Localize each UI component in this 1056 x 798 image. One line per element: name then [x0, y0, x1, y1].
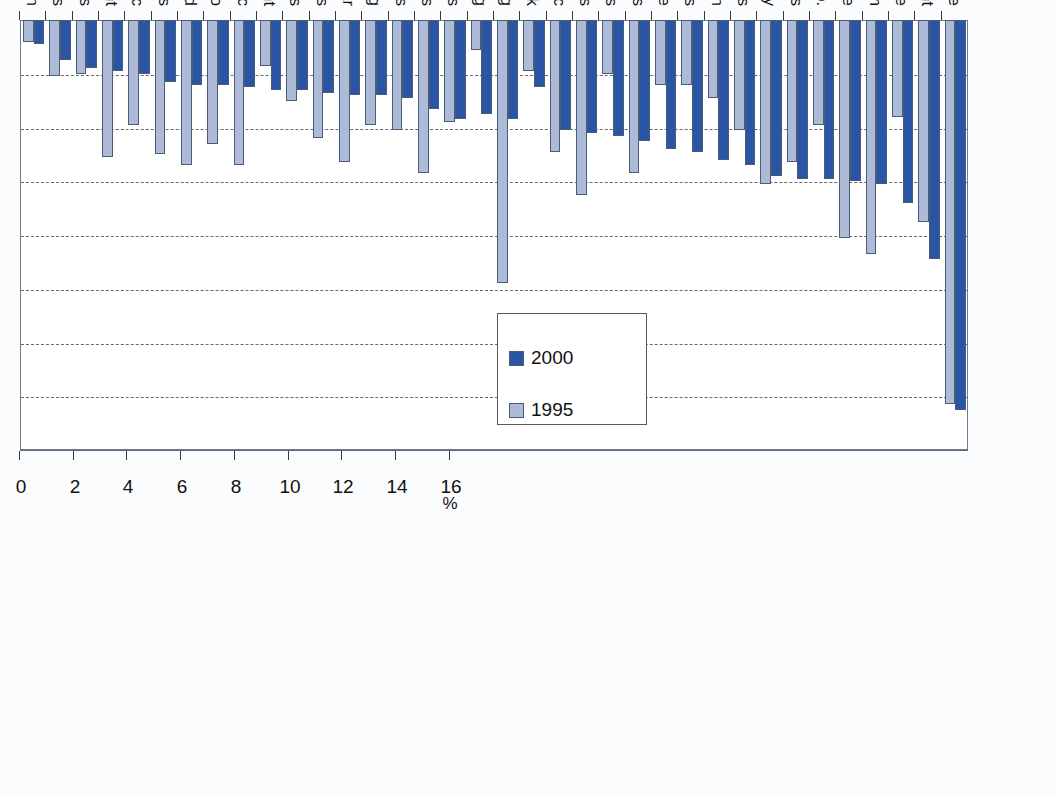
- category-tick: [98, 11, 99, 20]
- bar-1995: [208, 20, 219, 144]
- value-axis-tick: [127, 451, 128, 460]
- bar-1995: [524, 20, 535, 71]
- bar-2000: [86, 20, 97, 68]
- bar-2000: [639, 20, 650, 141]
- bar-2000: [929, 20, 940, 259]
- gridline: [21, 236, 967, 237]
- bar-1995: [234, 20, 245, 165]
- category-label: Rubber and plastics: [314, 0, 331, 6]
- bar-1995: [813, 20, 824, 125]
- bar-1995: [866, 20, 877, 254]
- bar-2000: [455, 20, 466, 119]
- bar-1995: [287, 20, 298, 101]
- category-label: Other transport equipment: [104, 0, 121, 6]
- bar-2000: [297, 20, 308, 90]
- bar-1995: [445, 20, 456, 122]
- bar-2000: [429, 20, 440, 109]
- category-label: Education: [709, 0, 726, 6]
- category-label: Electrical machinery nec: [130, 0, 147, 6]
- value-axis-tick: [19, 451, 20, 460]
- legend-label-1995: 1995: [531, 399, 573, 421]
- bar-2000: [771, 20, 782, 176]
- bar-1995: [787, 20, 798, 162]
- category-label: Textiles, leather and footwear: [341, 0, 358, 6]
- bar-2000: [113, 20, 124, 71]
- category-tick: [914, 11, 915, 20]
- category-tick: [941, 11, 942, 20]
- value-axis-label: 14: [374, 476, 420, 498]
- bar-1995: [576, 20, 587, 195]
- bar-1995: [260, 20, 271, 66]
- bar-2000: [323, 20, 334, 93]
- category-label: Radio, TV, communication equip.: [815, 0, 832, 6]
- category-tick: [309, 11, 310, 20]
- bar-1995: [471, 20, 482, 50]
- bar-2000: [271, 20, 282, 90]
- value-axis-tick: [449, 451, 450, 460]
- bar-2000: [402, 20, 413, 98]
- bar-2000: [376, 20, 387, 95]
- chart-canvas: 0246810121416%Transport and storageResea…: [0, 0, 1056, 798]
- category-tick: [335, 11, 336, 20]
- rotated-figure: 0246810121416%Transport and storageResea…: [0, 0, 1056, 798]
- category-tick: [888, 11, 889, 20]
- category-tick: [177, 11, 178, 20]
- bar-2000: [244, 20, 255, 87]
- category-label: Motor vehicles: [77, 0, 94, 6]
- category-tick: [809, 11, 810, 20]
- category-label: Health and social work: [525, 0, 542, 6]
- bar-2000: [218, 20, 229, 85]
- axis-unit-label: %: [442, 494, 457, 514]
- bar-1995: [50, 20, 61, 76]
- category-label: Hotels and restaurants: [788, 0, 805, 6]
- category-label: Mining and quarrying: [499, 0, 516, 6]
- legend-item-1995[interactable]: 1995: [509, 399, 573, 421]
- bar-1995: [129, 20, 140, 125]
- bar-2000: [34, 20, 45, 44]
- bar-2000: [192, 20, 203, 85]
- category-label: Finance, insurance: [841, 0, 858, 6]
- gridline: [21, 397, 967, 398]
- bar-2000: [481, 20, 492, 114]
- category-tick: [203, 11, 204, 20]
- category-tick: [388, 11, 389, 20]
- category-label: Scientific instruments: [578, 0, 595, 6]
- value-axis-tick: [395, 451, 396, 460]
- category-tick: [361, 11, 362, 20]
- category-tick: [230, 11, 231, 20]
- category-label: Food, beverages and tobacco: [209, 0, 226, 6]
- bar-1995: [550, 20, 561, 152]
- value-axis-label: 0: [0, 476, 44, 498]
- category-label: Transport and storage: [946, 0, 963, 6]
- bar-1995: [155, 20, 166, 154]
- value-axis-tick: [180, 451, 181, 460]
- value-axis-label: 12: [321, 476, 367, 498]
- bar-1995: [761, 20, 772, 184]
- legend-label-2000: 2000: [531, 347, 573, 369]
- bar-1995: [102, 20, 113, 157]
- category-tick: [730, 11, 731, 20]
- bar-1995: [682, 20, 693, 85]
- category-label: Construction: [25, 0, 42, 6]
- bar-2000: [60, 20, 71, 60]
- bar-2000: [955, 20, 966, 410]
- bar-2000: [560, 20, 571, 130]
- category-tick: [835, 11, 836, 20]
- category-label: Research and development: [920, 0, 937, 6]
- category-label: Chemicals: [446, 0, 463, 6]
- bar-1995: [629, 20, 640, 173]
- legend-item-2000[interactable]: 2000: [509, 347, 573, 369]
- value-axis-label: 10: [267, 476, 313, 498]
- value-axis-label: 8: [213, 476, 259, 498]
- category-tick: [414, 11, 415, 20]
- category-tick: [440, 11, 441, 20]
- category-tick: [256, 11, 257, 20]
- category-tick: [124, 11, 125, 20]
- category-tick: [45, 11, 46, 20]
- bar-1995: [313, 20, 324, 138]
- category-label: Non-metallic mineral products: [420, 0, 437, 6]
- category-label: Coke, refined petroleum: [867, 0, 884, 6]
- category-label: Post and telecommunications: [683, 0, 700, 6]
- bar-1995: [603, 20, 614, 74]
- category-label: Wood: [183, 0, 200, 6]
